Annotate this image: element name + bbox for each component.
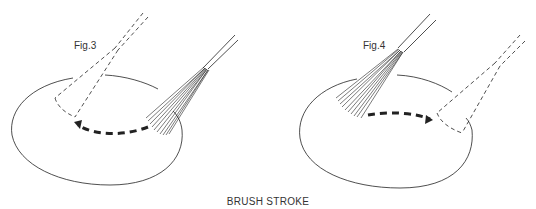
fig4-bristles (336, 49, 403, 118)
fig4-drawing (300, 14, 525, 188)
fig4-ghost-brush (437, 35, 525, 133)
caption: BRUSH STROKE (0, 196, 536, 207)
fig3-drawing (12, 13, 238, 185)
fig3-bristles (146, 67, 209, 135)
fig3-ghost-brush (55, 13, 148, 117)
fig4-paint-area (300, 79, 473, 188)
fig4-stroke-arrow (368, 113, 430, 119)
fig3-stroke-arrow (78, 125, 148, 134)
fig4-label: Fig.4 (363, 40, 385, 51)
brush-stroke-diagram (0, 0, 536, 209)
fig3-label: Fig.3 (74, 40, 96, 51)
